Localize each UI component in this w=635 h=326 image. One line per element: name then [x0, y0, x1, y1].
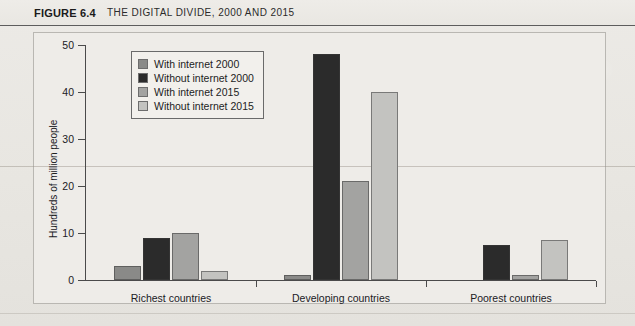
- legend-item: With internet 2015: [138, 85, 254, 99]
- legend-item: Without internet 2015: [138, 99, 254, 113]
- figure-title: THE DIGITAL DIVIDE, 2000 AND 2015: [107, 7, 295, 18]
- legend-item: Without internet 2000: [138, 71, 254, 85]
- y-tick-label: 50: [34, 39, 74, 51]
- legend-swatch: [138, 59, 148, 69]
- y-tick-mark: [78, 280, 85, 281]
- bar: [284, 275, 311, 280]
- bar: [541, 240, 568, 280]
- bar: [342, 181, 369, 280]
- y-tick-mark: [78, 45, 85, 46]
- y-tick-label: 0: [34, 274, 74, 286]
- legend-swatch: [138, 101, 148, 111]
- figure-label: FIGURE 6.4: [34, 7, 96, 19]
- legend-swatch: [138, 73, 148, 83]
- y-tick-mark: [78, 233, 85, 234]
- x-axis-group-label: Richest countries: [131, 292, 212, 304]
- bar: [483, 245, 510, 280]
- bar: [512, 275, 539, 280]
- x-axis-group-label: Poorest countries: [470, 292, 552, 304]
- legend-label: Without internet 2015: [154, 100, 254, 112]
- chart-legend: With internet 2000Without internet 2000W…: [131, 51, 264, 119]
- y-tick-mark: [78, 92, 85, 93]
- bar: [371, 92, 398, 280]
- x-axis-line: [85, 280, 596, 281]
- y-tick-label: 40: [34, 86, 74, 98]
- y-tick-mark: [78, 139, 85, 140]
- legend-label: Without internet 2000: [154, 72, 254, 84]
- legend-swatch: [138, 87, 148, 97]
- bar: [143, 238, 170, 280]
- x-tick-mark: [596, 281, 597, 287]
- bar: [114, 266, 141, 280]
- legend-label: With internet 2015: [154, 86, 239, 98]
- bar: [313, 54, 340, 280]
- y-tick-mark: [78, 186, 85, 187]
- figure-caption: FIGURE 6.4 THE DIGITAL DIVIDE, 2000 AND …: [0, 0, 635, 26]
- bar: [172, 233, 199, 280]
- y-axis-title: Hundreds of million people: [48, 120, 59, 238]
- legend-label: With internet 2000: [154, 58, 239, 70]
- x-axis-group-label: Developing countries: [292, 292, 390, 304]
- x-tick-mark: [426, 281, 427, 287]
- x-tick-mark: [256, 281, 257, 287]
- legend-item: With internet 2000: [138, 57, 254, 71]
- bar: [201, 271, 228, 280]
